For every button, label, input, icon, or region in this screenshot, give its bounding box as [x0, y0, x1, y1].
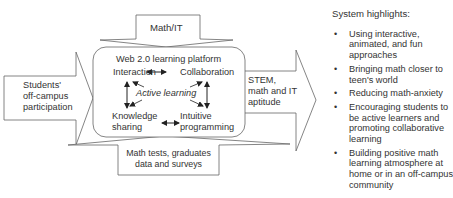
right-output-label: STEM, math and IT aptitude	[248, 75, 297, 108]
node-line: sharing	[112, 122, 157, 133]
left-input-line: participation	[23, 102, 73, 113]
node-knowledge-sharing: Knowledge sharing	[112, 111, 157, 133]
left-input-label: Students' off-campus participation	[23, 80, 73, 113]
node-line: programming	[180, 122, 234, 133]
highlight-item: Reducing math-anxiety	[332, 88, 453, 99]
top-input-label: Math/IT	[150, 22, 183, 33]
highlight-item: Using interactive, animated, and fun app…	[332, 29, 453, 61]
left-input-line: Students'	[23, 80, 73, 91]
right-output-line: STEM,	[248, 75, 297, 86]
node-line: Knowledge	[112, 111, 157, 122]
left-input-line: off-campus	[23, 91, 73, 102]
node-line: Intuitive	[180, 111, 234, 122]
highlights-title: System highlights:	[332, 9, 453, 20]
bottom-input-label: Math tests, graduates data and surveys	[118, 148, 219, 170]
bottom-input-line: data and surveys	[118, 159, 219, 170]
node-collaboration: Collaboration	[180, 67, 234, 78]
system-highlights: System highlights: Using interactive, an…	[332, 9, 453, 194]
highlight-item: Encouraging students to be active learne…	[332, 102, 453, 145]
bottom-input-line: Math tests, graduates	[118, 148, 219, 159]
highlight-item: Bringing math closer to teen's world	[332, 64, 453, 85]
node-active-learning: Active learning	[136, 88, 196, 99]
right-output-line: math and IT	[248, 86, 297, 97]
right-output-line: aptitude	[248, 97, 297, 108]
platform-title: Web 2.0 learning platform	[116, 54, 221, 65]
highlight-item: Building positive math learning atmosphe…	[332, 148, 453, 191]
highlights-list: Using interactive, animated, and fun app…	[332, 29, 453, 191]
node-interaction: Interaction	[113, 67, 156, 78]
node-intuitive-programming: Intuitive programming	[180, 111, 234, 133]
